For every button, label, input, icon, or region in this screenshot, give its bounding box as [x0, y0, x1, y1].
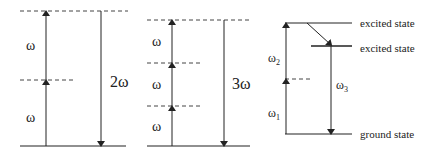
- panel-two-color: ω2 ω1 ω3 excited state excited state gro…: [268, 17, 415, 140]
- upper-excited-state-label: excited state: [360, 17, 415, 29]
- energy-level-diagrams: ω ω 2ω ω ω ω 3ω ω2 ω1 ω3 excited state e…: [0, 0, 434, 155]
- emission-label: 2ω: [110, 73, 129, 90]
- panel-two-photon: ω ω 2ω: [20, 11, 129, 146]
- emission-label: 3ω: [232, 75, 251, 92]
- relaxation-arrow: [307, 23, 330, 44]
- omega-label: ω: [152, 77, 161, 92]
- omega-label: ω: [26, 38, 35, 53]
- panel-three-photon: ω ω ω 3ω: [147, 20, 251, 146]
- omega-label: ω: [152, 119, 161, 134]
- omega1-label: ω1: [268, 106, 280, 122]
- omega3-label: ω3: [336, 78, 348, 94]
- omega-label: ω: [26, 110, 35, 125]
- lower-excited-state-label: excited state: [360, 42, 415, 54]
- ground-state-label: ground state: [360, 128, 414, 140]
- omega2-label: ω2: [268, 51, 280, 67]
- omega-label: ω: [152, 34, 161, 49]
